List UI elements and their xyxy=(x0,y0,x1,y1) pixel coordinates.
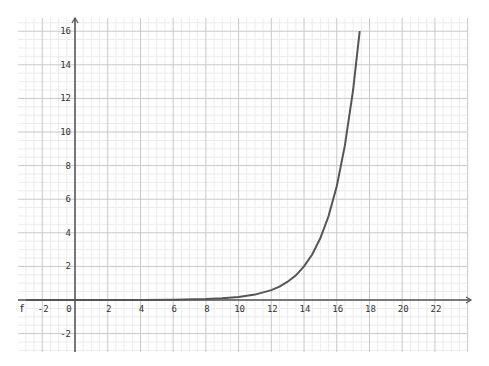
y-tick-label: 10 xyxy=(60,127,71,137)
minor-grid xyxy=(18,18,467,352)
x-tick-label: 10 xyxy=(234,304,245,314)
major-grid xyxy=(18,18,468,352)
y-tick-label: 12 xyxy=(60,93,71,103)
x-tick-label: -2 xyxy=(38,304,49,314)
x-tick-label: 6 xyxy=(171,304,176,314)
function-graph[interactable]: -20246810121416182022-2246810121416 f xyxy=(0,0,489,366)
axes xyxy=(18,18,471,352)
y-tick-label: 8 xyxy=(66,161,71,171)
y-tick-label: 2 xyxy=(66,261,71,271)
x-tick-label: 22 xyxy=(430,304,441,314)
y-tick-label: 16 xyxy=(60,26,71,36)
x-tick-label: 16 xyxy=(332,304,343,314)
x-tick-label: 18 xyxy=(365,304,376,314)
y-tick-label: 14 xyxy=(60,60,71,70)
x-tick-label: 14 xyxy=(300,304,311,314)
y-tick-label: -2 xyxy=(60,329,71,339)
x-tick-label: 2 xyxy=(106,304,111,314)
x-tick-label: 4 xyxy=(139,304,144,314)
y-tick-label: 6 xyxy=(66,194,71,204)
x-tick-label: 0 xyxy=(66,304,71,314)
x-tick-label: 20 xyxy=(398,304,409,314)
x-tick-label: 8 xyxy=(204,304,209,314)
y-tick-label: 4 xyxy=(66,228,71,238)
x-tick-label: 12 xyxy=(267,304,278,314)
